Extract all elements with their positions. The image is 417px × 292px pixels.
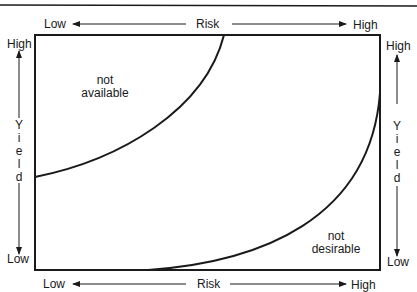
left-axis-high-label: High [7,38,32,50]
region-not-available: not available [72,74,138,100]
left-axis-title-char: d [13,171,25,184]
upper-frontier-curve [35,35,224,177]
left-axis-title: Y i e l d [13,119,25,184]
right-axis-title-char: d [391,172,403,185]
bottom-axis-low-label: Low [43,278,65,290]
right-axis-title: Y i e l d [391,120,403,185]
region-not-available-line2: available [72,87,138,100]
top-rule [0,5,417,6]
left-axis-low-label: Low [7,253,29,265]
region-not-desirable-line2: desirable [301,243,371,256]
top-axis-high-label: High [353,19,378,31]
top-axis-low-label: Low [44,18,66,30]
region-not-desirable: not desirable [301,230,371,256]
right-axis-low-label: Low [387,256,409,268]
right-axis-high-label: High [386,40,411,52]
bottom-axis-high-label: High [351,279,376,291]
bottom-axis-title: Risk [197,278,220,290]
top-axis-title: Risk [196,18,219,30]
